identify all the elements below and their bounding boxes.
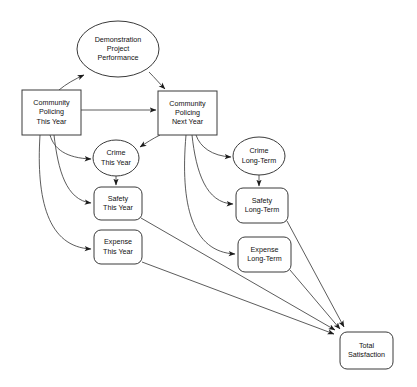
nodes-layer: DemonstrationProjectPerformanceCommunity…: [22, 21, 393, 369]
node-safety-this-year[interactable]: SafetyThis Year: [94, 187, 142, 220]
edge-cp-this-year-to-demo: [59, 75, 84, 90]
node-safety-long-term[interactable]: SafetyLong-Term: [236, 188, 288, 223]
edge-demo-to-cp-next-year: [149, 72, 165, 89]
edge-cp-next-year-to-expense-long-term: [185, 135, 235, 254]
edge-safety-long-term-to-total-satisfaction: [287, 221, 344, 327]
node-shape-crime-this-year[interactable]: [93, 140, 139, 176]
edge-cp-this-year-to-expense-this-year: [39, 135, 91, 249]
node-demonstration-project-performance[interactable]: DemonstrationProjectPerformance: [77, 21, 159, 77]
node-community-policing-this-year[interactable]: CommunityPolicingThis Year: [22, 90, 81, 135]
node-total-satisfaction[interactable]: TotalSatisfaction: [340, 332, 393, 369]
node-shape-total-satisfaction[interactable]: [340, 332, 393, 369]
node-community-policing-next-year[interactable]: CommunityPolicingNext Year: [158, 91, 217, 135]
diagram-canvas: DemonstrationProjectPerformanceCommunity…: [0, 0, 417, 387]
edge-cp-this-year-to-safety-this-year: [54, 135, 91, 203]
diagram-svg: DemonstrationProjectPerformanceCommunity…: [0, 0, 417, 387]
node-crime-this-year[interactable]: CrimeThis Year: [93, 140, 139, 176]
node-shape-demonstration-project-performance[interactable]: [77, 21, 159, 77]
edge-cp-this-year-to-crime-this-year: [50, 135, 91, 159]
node-shape-expense-long-term[interactable]: [238, 237, 291, 272]
node-expense-long-term[interactable]: ExpenseLong-Term: [238, 237, 291, 272]
edge-cp-next-year-to-crime-long-term: [196, 135, 231, 157]
edge-cp-next-year-to-safety-long-term: [192, 135, 233, 204]
edge-cp-next-year-to-crime-this-year: [140, 135, 160, 147]
node-shape-community-policing-this-year[interactable]: [22, 90, 81, 135]
node-shape-community-policing-next-year[interactable]: [158, 91, 217, 135]
node-shape-safety-this-year[interactable]: [94, 187, 142, 220]
node-shape-safety-long-term[interactable]: [236, 188, 288, 223]
node-crime-long-term[interactable]: CrimeLong-Term: [233, 137, 285, 175]
node-shape-crime-long-term[interactable]: [233, 137, 285, 175]
edge-expense-this-year-to-total-satisfaction: [142, 262, 334, 334]
edge-safety-this-year-to-total-satisfaction: [141, 218, 335, 330]
node-expense-this-year[interactable]: ExpenseThis Year: [94, 230, 142, 264]
node-shape-expense-this-year[interactable]: [94, 230, 142, 264]
